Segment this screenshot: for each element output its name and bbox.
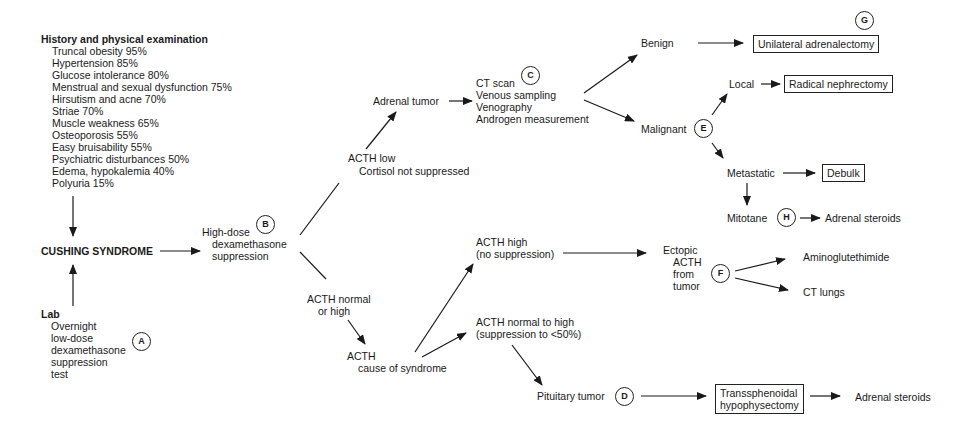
marker-h: H [777, 208, 796, 227]
high-dose-line: High-dose [202, 226, 250, 238]
marker-b: B [256, 215, 275, 234]
acth-norm-to-high-line: ACTH normal to high [476, 316, 574, 328]
lab-heading: Lab [41, 308, 60, 320]
benign-node: Benign [641, 37, 674, 49]
ectopic-line: ACTH [673, 256, 702, 268]
marker-a: A [132, 332, 151, 351]
local-node: Local [729, 78, 754, 90]
history-item: Muscle weakness 65% [52, 117, 159, 129]
acth-cause-line: ACTH [347, 350, 376, 362]
metastatic-node: Metastatic [727, 167, 775, 179]
history-item: Edema, hypokalemia 40% [52, 165, 174, 177]
arrow-layer [0, 0, 955, 439]
high-dose-line: suppression [212, 250, 269, 262]
marker-d: D [615, 387, 634, 406]
history-item: Hirsutism and acne 70% [52, 93, 166, 105]
transsphenoidal-line: Transsphenoidal [720, 387, 799, 399]
marker-e: E [694, 119, 713, 138]
lab-line: dexamethasone [51, 344, 126, 356]
history-item: Hypertension 85% [52, 57, 138, 69]
ct-scan-line: Venous sampling [476, 89, 556, 101]
ectopic-line: Ectopic [663, 244, 697, 256]
cushing-syndrome-node: CUSHING SYNDROME [41, 245, 153, 257]
history-item: Easy bruisability 55% [52, 141, 152, 153]
history-item: Glucose intolerance 80% [52, 69, 169, 81]
acth-normal-line: ACTH normal [307, 293, 371, 305]
ct-scan-line: CT scan [476, 77, 515, 89]
lab-line: Overnight [51, 320, 97, 332]
lab-line: suppression [51, 356, 108, 368]
transsphenoidal-line: hypophysectomy [720, 399, 799, 411]
lab-line: low-dose [51, 332, 93, 344]
malignant-node: Malignant [641, 123, 687, 135]
acth-high-line: (no suppression) [476, 248, 554, 260]
marker-f: F [711, 264, 730, 283]
history-item: Menstrual and sexual dysfunction 75% [52, 81, 232, 93]
history-item: Truncal obesity 95% [52, 45, 147, 57]
history-heading: History and physical examination [41, 33, 208, 45]
radical-nephrectomy-box: Radical nephrectomy [784, 75, 893, 93]
ct-scan-line: Venography [476, 101, 532, 113]
history-item: Osteoporosis 55% [52, 129, 138, 141]
ectopic-line: from [673, 268, 694, 280]
marker-c: C [521, 66, 540, 85]
pituitary-tumor-node: Pituitary tumor [537, 390, 605, 402]
ectopic-line: tumor [673, 280, 700, 292]
acth-low-line: ACTH low [348, 152, 395, 164]
debulk-box: Debulk [822, 164, 865, 182]
adrenal-steroids-node-1: Adrenal steroids [825, 212, 901, 224]
acth-cause-line: cause of syndrome [358, 362, 447, 374]
acth-norm-to-high-line: (suppression to <50%) [476, 328, 581, 340]
acth-normal-line: or high [318, 305, 350, 317]
history-item: Psychiatric disturbances 50% [52, 153, 189, 165]
lab-line: test [51, 368, 68, 380]
history-item: Striae 70% [52, 105, 103, 117]
transsphenoidal-box: Transsphenoidal hypophysectomy [715, 384, 804, 414]
adrenal-tumor-node: Adrenal tumor [373, 95, 439, 107]
unilateral-adrenalectomy-box: Unilateral adrenalectomy [753, 35, 879, 53]
acth-high-line: ACTH high [476, 236, 527, 248]
marker-g: G [855, 11, 874, 30]
aminoglutethimide-node: Aminoglutethimide [803, 251, 889, 263]
acth-low-line: Cortisol not suppressed [359, 165, 469, 177]
ct-scan-line: Androgen measurement [476, 113, 589, 125]
high-dose-line: dexamethasone [212, 238, 287, 250]
ct-lungs-node: CT lungs [803, 286, 845, 298]
mitotane-node: Mitotane [727, 212, 767, 224]
history-item: Polyuria 15% [52, 177, 114, 189]
adrenal-steroids-node-2: Adrenal steroids [855, 391, 931, 403]
